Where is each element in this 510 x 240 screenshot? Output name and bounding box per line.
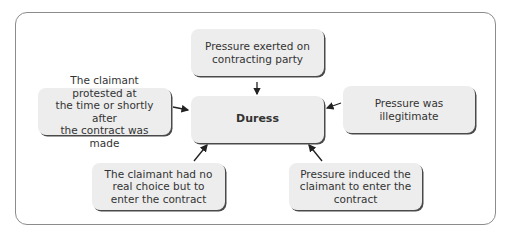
arrow-bottom-left-to-center xyxy=(194,145,207,161)
node-label: Pressure exerted on contracting party xyxy=(205,40,310,65)
node-no-real-choice: The claimant had no real choice but to e… xyxy=(92,163,225,210)
node-claimant-protested: The claimant protested at the time or sh… xyxy=(38,88,171,135)
node-pressure-exerted: Pressure exerted on contracting party xyxy=(191,29,324,76)
arrow-bottom-right-to-center xyxy=(309,145,322,161)
arrow-left-to-center xyxy=(173,107,188,110)
node-label: Pressure was illegitimate xyxy=(375,97,444,122)
node-pressure-illegitimate: Pressure was illegitimate xyxy=(343,86,475,133)
arrow-right-to-center xyxy=(327,103,341,108)
node-label: The claimant protested at the time or sh… xyxy=(44,74,165,149)
node-label: Pressure induced the claimant to enter t… xyxy=(300,168,411,206)
node-label: The claimant had no real choice but to e… xyxy=(105,168,213,206)
center-label: Duress xyxy=(236,113,279,126)
node-pressure-induced: Pressure induced the claimant to enter t… xyxy=(289,163,422,210)
node-duress-center: Duress xyxy=(191,96,324,143)
